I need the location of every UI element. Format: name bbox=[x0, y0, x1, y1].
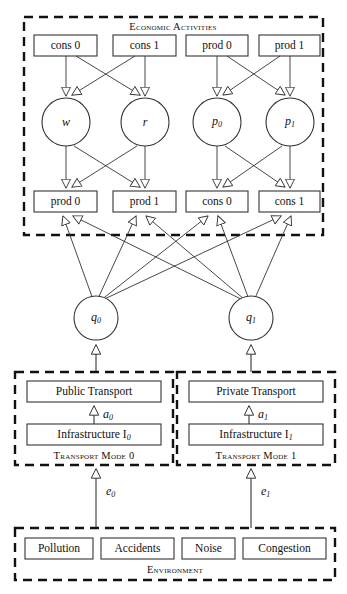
label-infrastructure-1-text: Infrastructure I bbox=[219, 428, 288, 440]
label-edge-a0: a0 bbox=[103, 408, 113, 422]
diagram-vector-layer bbox=[0, 0, 347, 594]
label-circle-r: r bbox=[143, 116, 148, 128]
label-q0-sub: 0 bbox=[97, 316, 101, 325]
label-infrastructure-0-sub: 0 bbox=[127, 433, 131, 442]
group-title-environment: Environment bbox=[147, 565, 203, 576]
label-circle-w: w bbox=[62, 116, 70, 128]
edge-q0-to-cons1 bbox=[96, 216, 281, 303]
edge-q0-to-prod1 bbox=[95, 216, 136, 305]
label-cons0-top: cons 0 bbox=[51, 40, 81, 52]
label-q0: q0 bbox=[91, 311, 101, 325]
label-edge-e1-sub: 1 bbox=[266, 490, 270, 499]
label-prod1-bottom: prod 1 bbox=[130, 196, 160, 208]
label-circle-r-text: r bbox=[143, 115, 148, 129]
label-pollution: Pollution bbox=[38, 543, 80, 555]
edge-w-to-prod1 bbox=[74, 146, 140, 187]
label-cons0-bottom: cons 0 bbox=[202, 196, 232, 208]
label-q1: q1 bbox=[246, 311, 256, 325]
edge-p1-to-cons0 bbox=[223, 146, 282, 187]
group-title-economic-activities: Economic Activities bbox=[129, 22, 216, 33]
label-edge-e0: e0 bbox=[106, 485, 115, 499]
label-circle-p1: p1 bbox=[285, 115, 295, 129]
label-private-transport: Private Transport bbox=[216, 386, 296, 398]
label-infrastructure-0-text: Infrastructure I bbox=[57, 428, 126, 440]
edge-prod1-to-p0 bbox=[223, 56, 280, 95]
label-circle-p1-sub: 1 bbox=[291, 120, 295, 129]
label-edge-e0-sub: 0 bbox=[111, 490, 115, 499]
label-infrastructure-0: Infrastructure I0 bbox=[57, 429, 130, 442]
label-prod0-bottom: prod 0 bbox=[51, 196, 81, 208]
edge-q0-to-cons0 bbox=[96, 216, 208, 304]
label-noise: Noise bbox=[195, 543, 222, 555]
label-infrastructure-1: Infrastructure I1 bbox=[219, 429, 292, 442]
edge-p0-to-cons1 bbox=[225, 146, 285, 187]
label-prod1-top: prod 1 bbox=[275, 40, 305, 52]
label-q1-sub: 1 bbox=[252, 316, 256, 325]
group-title-transport-mode-0: Transport Mode 0 bbox=[54, 451, 135, 462]
edge-prod0-to-p1 bbox=[227, 56, 285, 95]
edge-q0-to-prod0 bbox=[63, 216, 95, 305]
label-edge-a1-sub: 1 bbox=[264, 413, 268, 422]
edge-q1-to-prod1 bbox=[146, 216, 251, 305]
label-circle-w-text: w bbox=[62, 115, 70, 129]
label-accidents: Accidents bbox=[115, 543, 161, 555]
label-circle-p0: p0 bbox=[212, 115, 222, 129]
edge-cons0-to-r bbox=[76, 56, 140, 95]
label-edge-a1: a1 bbox=[258, 408, 268, 422]
label-infrastructure-1-sub: 1 bbox=[289, 433, 293, 442]
label-edge-a0-sub: 0 bbox=[109, 413, 113, 422]
label-circle-p0-sub: 0 bbox=[218, 120, 222, 129]
edge-q1-to-cons1 bbox=[252, 216, 291, 305]
diagram-canvas: Economic Activities cons 0 cons 1 prod 0… bbox=[0, 0, 347, 594]
label-cons1-bottom: cons 1 bbox=[275, 196, 305, 208]
label-congestion: Congestion bbox=[258, 543, 310, 555]
label-public-transport: Public Transport bbox=[56, 386, 132, 398]
label-prod0-top: prod 0 bbox=[202, 40, 232, 52]
label-edge-e1: e1 bbox=[261, 485, 270, 499]
label-cons1-top: cons 1 bbox=[130, 40, 160, 52]
group-title-transport-mode-1: Transport Mode 1 bbox=[216, 451, 297, 462]
edge-cons1-to-w bbox=[72, 56, 135, 95]
edge-q1-to-cons0 bbox=[218, 216, 251, 305]
edge-r-to-prod0 bbox=[72, 146, 137, 187]
